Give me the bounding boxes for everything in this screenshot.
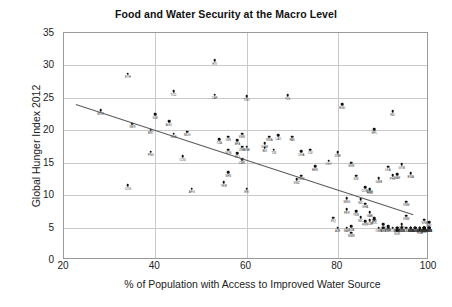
data-point-label: IDN [354, 178, 359, 181]
y-tick-label: 0 [48, 254, 54, 265]
data-point-label: NPL [372, 132, 377, 135]
data-point-label: BEN [312, 169, 318, 172]
data-point-label: PNG [148, 154, 154, 157]
gridline-horizontal [64, 163, 427, 164]
gridline-horizontal [64, 228, 427, 229]
y-tick-label: 15 [43, 156, 54, 167]
data-point-label: COD [179, 159, 185, 162]
data-point-label: GTM [398, 167, 404, 170]
gridline-vertical [155, 33, 156, 258]
data-point-label: VNM [403, 218, 409, 221]
data-point-label: UZB [367, 223, 373, 226]
y-axis-tick-labels: 05101520253035 [0, 32, 60, 259]
data-point-label: RWA [266, 139, 272, 142]
data-point-label: MNG [344, 201, 351, 204]
data-point-label: PER [344, 212, 350, 215]
x-axis-title: % of Population with Access to Improved … [63, 278, 442, 290]
data-point-label: LAO [276, 138, 282, 141]
y-tick-label: 10 [43, 189, 54, 200]
data-point-label: GHA [362, 206, 368, 209]
data-point-label: ETH [125, 76, 131, 79]
y-tick-label: 35 [43, 27, 54, 38]
data-point-label: CIV [308, 152, 313, 155]
data-point-label: AFG [189, 191, 195, 194]
data-point-label: LCA [417, 232, 422, 235]
data-point-label: BWA [408, 176, 414, 179]
data-point-label: IND [390, 114, 395, 117]
data-point-label: VNM [403, 204, 409, 207]
data-point-label: HTI [212, 63, 217, 66]
data-point-label: TGO [243, 99, 249, 102]
gridline-horizontal [64, 195, 427, 196]
data-point-label: KEN [239, 136, 245, 139]
data-point-label: KHM [262, 146, 268, 149]
data-point-label: HND [367, 192, 373, 195]
x-tick-label: 40 [149, 260, 160, 271]
gridline-vertical [338, 33, 339, 258]
y-tick-label: 20 [43, 124, 54, 135]
data-point-label: BGD [339, 107, 345, 110]
y-tick-label: 5 [48, 221, 54, 232]
data-point-label: ZAF [385, 230, 390, 233]
data-point-label: TZA [216, 142, 221, 145]
data-point-label: MDG [184, 134, 191, 137]
data-point-label: TKM [353, 214, 359, 217]
data-point-label: NER [129, 126, 135, 129]
data-point-label: SLE [153, 117, 158, 120]
data-point-label: AGO [166, 124, 172, 127]
data-point-label: DZA [349, 229, 355, 232]
data-point-label: MRT [148, 132, 154, 135]
data-point-label: PAK [289, 139, 294, 142]
chart-title: Food and Water Security at the Macro Lev… [0, 8, 452, 20]
scatter-chart: Food and Water Security at the Macro Lev… [0, 0, 452, 307]
trend-line [76, 104, 413, 215]
data-point-label: GIN [226, 139, 231, 142]
data-point-label: SWZ [294, 182, 300, 185]
data-point-label: NAM [394, 177, 400, 180]
data-point-label: COG [125, 188, 131, 191]
data-point-label: GAB [367, 215, 373, 218]
x-tick-label: 60 [240, 260, 251, 271]
data-point-label: MMR [348, 235, 355, 238]
data-point-label: TJK [271, 152, 276, 155]
data-point-label: AZE [335, 230, 340, 233]
data-point-label: ERI [244, 191, 249, 194]
data-point-label: TCD [171, 94, 177, 97]
data-point-label: GNB [243, 149, 249, 152]
data-point-label: OMN [376, 230, 383, 233]
x-tick-label: 80 [331, 260, 342, 271]
data-point-label: CAF [212, 97, 218, 100]
data-point-label: TLS [285, 98, 290, 101]
plot-area: MOZETHNERSLEAGOMRTTCDCOGHTICAFTGOMDGNGAP… [63, 32, 428, 259]
y-tick-label: 25 [43, 91, 54, 102]
data-point-label: ZWE [335, 155, 341, 158]
data-point-label: NIC [358, 202, 363, 205]
data-point-label: GUY [399, 227, 405, 230]
x-axis-tick-labels: 20406080100 [63, 260, 428, 276]
data-point-label: SUR [394, 233, 400, 236]
data-point-label: MWI [349, 165, 355, 168]
gridline-horizontal [64, 65, 427, 66]
y-tick-label: 30 [43, 59, 54, 70]
data-point-label: LSO [326, 163, 332, 166]
data-point-label: BFA [235, 143, 240, 146]
data-point-label: GMB [376, 181, 382, 184]
data-point-label: UGA [298, 154, 304, 157]
data-point-label: BDI [262, 150, 267, 153]
data-point-label: IRQ [331, 220, 336, 223]
data-point-label: LBY [426, 225, 431, 228]
x-tick-label: 20 [57, 260, 68, 271]
data-point-label: LKA [385, 169, 390, 172]
data-point-label: SRB [422, 222, 428, 225]
data-point-label: CMR [239, 162, 245, 165]
data-point-label: NIC [358, 220, 363, 223]
x-tick-label: 100 [420, 260, 437, 271]
data-point-label: BLZ [422, 231, 427, 234]
data-point-label: YEM [221, 185, 227, 188]
data-point-label: SEN [225, 175, 231, 178]
